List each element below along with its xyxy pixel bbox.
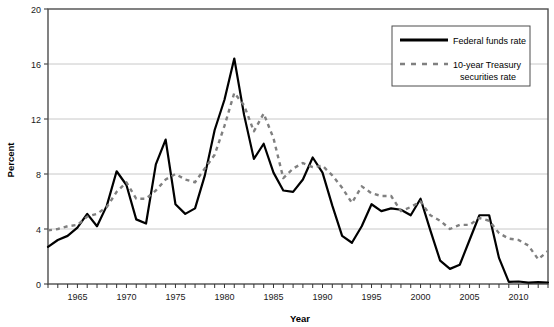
y-tick-label-4: 4 xyxy=(36,225,41,235)
legend-label-treasury-rate: 10-year Treasury xyxy=(453,60,522,70)
legend-label-federal-funds-rate: Federal funds rate xyxy=(453,36,526,46)
x-tick-label-1985: 1985 xyxy=(263,292,283,302)
y-tick-label-20: 20 xyxy=(31,5,41,15)
chart-figure: 048121620 196519701975198019851990199520… xyxy=(0,0,554,327)
x-tick-label-2000: 2000 xyxy=(411,292,431,302)
y-axis-title: Percent xyxy=(5,142,16,178)
legend-label-treasury-rate-line2: securities rate xyxy=(460,72,516,82)
x-tick-label-1995: 1995 xyxy=(362,292,382,302)
y-tick-label-12: 12 xyxy=(31,115,41,125)
x-tick-label-2005: 2005 xyxy=(460,292,480,302)
rates-line-chart: 048121620 196519701975198019851990199520… xyxy=(0,0,554,327)
x-tick-label-1965: 1965 xyxy=(67,292,87,302)
y-tick-label-16: 16 xyxy=(31,60,41,70)
x-tick-label-1980: 1980 xyxy=(214,292,234,302)
y-tick-label-8: 8 xyxy=(36,170,41,180)
x-tick-label-1970: 1970 xyxy=(116,292,136,302)
x-axis-title: Year xyxy=(290,313,310,324)
x-tick-label-1975: 1975 xyxy=(165,292,185,302)
chart-legend: Federal funds rate 10-year Treasury secu… xyxy=(392,26,530,86)
x-tick-label-1990: 1990 xyxy=(312,292,332,302)
y-axis: 048121620 xyxy=(31,5,48,290)
x-axis: 1965197019751980198519901995200020052010 xyxy=(48,284,548,302)
y-tick-label-0: 0 xyxy=(36,280,41,290)
x-tick-label-2010: 2010 xyxy=(509,292,529,302)
